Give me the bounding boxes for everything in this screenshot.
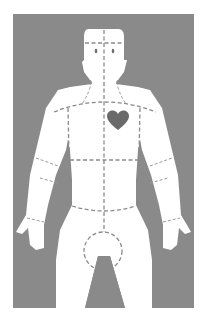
body-diagram bbox=[0, 0, 207, 323]
right-eye-icon bbox=[112, 49, 115, 53]
left-eye-icon bbox=[95, 49, 98, 53]
